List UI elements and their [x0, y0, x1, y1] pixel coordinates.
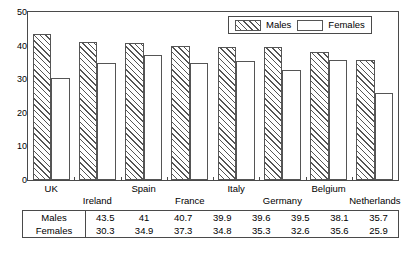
x-axis-tick-mark [121, 177, 122, 181]
bar-uk-females [51, 78, 70, 180]
table-cell: 43.5 [86, 211, 125, 224]
table-cell: 35.7 [359, 211, 398, 224]
x-axis-label-uk: UK [45, 184, 58, 194]
table-cell: 40.7 [164, 211, 203, 224]
data-table-body: Males43.54140.739.939.639.538.135.7Femal… [23, 211, 398, 237]
table-cell: 39.6 [242, 211, 281, 224]
y-axis-tick-label: 30 [5, 75, 27, 84]
table-cell: 39.9 [203, 211, 242, 224]
bar-france-males [171, 46, 190, 180]
bars-layer [28, 12, 398, 180]
bar-italy-females [236, 61, 255, 180]
x-axis-label-spain: Spain [131, 184, 155, 194]
bar-belgium-females [329, 60, 348, 180]
table-cell: 38.1 [320, 211, 359, 224]
x-axis-tick-mark [74, 177, 75, 181]
table-cell: 41 [125, 211, 164, 224]
bar-germany-females [282, 70, 301, 180]
bar-ireland-males [79, 42, 98, 180]
table-row-label: Males [23, 211, 86, 224]
y-axis-tick-label: 50 [5, 8, 27, 17]
table-cell: 34.9 [125, 224, 164, 237]
table-cell: 25.9 [359, 224, 398, 237]
x-axis-label-germany: Germany [263, 196, 302, 206]
table-cell: 32.6 [281, 224, 320, 237]
table-row-label: Females [23, 224, 86, 237]
bar-uk-males [33, 34, 52, 180]
legend-swatch-males-icon [235, 20, 261, 31]
data-table: Males43.54140.739.939.639.538.135.7Femal… [22, 210, 399, 238]
legend-label-females: Females [328, 20, 364, 30]
bar-netherlands-females [375, 93, 394, 180]
bar-italy-males [218, 47, 237, 180]
table-cell: 37.3 [164, 224, 203, 237]
x-axis-tick-mark [213, 177, 214, 181]
bar-spain-females [144, 55, 163, 180]
table-cell: 35.6 [320, 224, 359, 237]
table-row: Males43.54140.739.939.639.538.135.7 [23, 211, 398, 224]
x-axis-tick-mark [167, 177, 168, 181]
y-axis-tick-label: 0 [5, 176, 27, 185]
x-axis-label-france: France [175, 196, 205, 206]
x-axis-label-italy: Italy [227, 184, 244, 194]
data-table-grid: Males43.54140.739.939.639.538.135.7Femal… [23, 211, 398, 237]
bar-spain-males [125, 43, 144, 180]
x-axis-label-ireland: Ireland [83, 196, 112, 206]
x-axis-tick-mark [352, 177, 353, 181]
x-axis-tick-mark [306, 177, 307, 181]
legend-swatch-females-icon [297, 20, 323, 31]
table-row: Females30.334.937.334.835.332.635.625.9 [23, 224, 398, 237]
legend-entry-females: Females [297, 20, 364, 31]
legend-label-males: Males [266, 20, 291, 30]
table-cell: 30.3 [86, 224, 125, 237]
table-cell: 34.8 [203, 224, 242, 237]
y-axis-tick-label: 10 [5, 142, 27, 151]
bar-belgium-males [310, 52, 329, 180]
x-axis-label-belgium: Belgium [311, 184, 345, 194]
table-cell: 35.3 [242, 224, 281, 237]
y-axis-tick-label: 20 [5, 108, 27, 117]
y-axis: 01020304050 [0, 11, 27, 181]
bar-ireland-females [97, 63, 116, 180]
y-axis-tick-label: 40 [5, 41, 27, 50]
legend-entry-males: Males [235, 20, 291, 31]
chart-legend: Males Females [228, 16, 372, 34]
x-axis-label-netherlands: Netherlands [349, 196, 400, 206]
bar-germany-males [264, 47, 283, 180]
x-axis-tick-mark [259, 177, 260, 181]
bar-france-females [190, 63, 209, 180]
table-cell: 39.5 [281, 211, 320, 224]
bar-netherlands-males [356, 60, 375, 180]
